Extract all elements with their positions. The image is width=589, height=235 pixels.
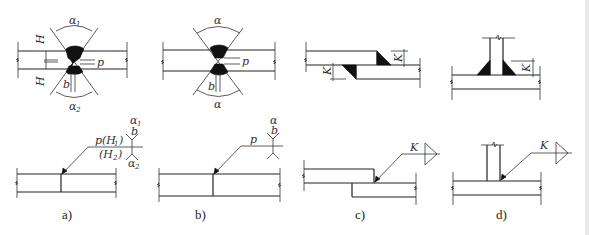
label-b-section: b <box>208 80 215 93</box>
label-p-section: p <box>242 55 249 68</box>
caption-d: d) <box>496 207 507 222</box>
panel-c-symbol: K <box>302 141 440 205</box>
panel-d-section: K <box>450 35 541 100</box>
caption-a: a) <box>62 207 72 222</box>
label-h2: H <box>34 76 47 87</box>
label-k-section: K <box>520 63 533 73</box>
symbol-label-k: K <box>539 139 549 152</box>
weld-symbol-figure: α 1 α 2 H H p b α α p <box>0 0 589 235</box>
symbol-label-b: b <box>271 124 278 137</box>
caption-c: c) <box>355 207 365 222</box>
panel-a-section: α 1 α 2 H H p b <box>16 14 128 114</box>
symbol-label-h2-close: ) <box>117 148 122 161</box>
symbol-label-p: p <box>250 133 257 146</box>
label-k-bottom-section: K <box>321 66 334 76</box>
symbol-label-h1-sub: 1 <box>114 140 118 148</box>
label-alpha1-sub: 1 <box>76 20 80 28</box>
label-alpha2-sub: 2 <box>75 106 81 114</box>
symbol-label-h2: (H <box>99 148 113 161</box>
symbol-label-b: b <box>131 125 138 138</box>
panel-b-symbol: p α b <box>157 114 283 202</box>
label-alpha-bottom-section: α <box>214 98 222 111</box>
symbol-label-k: K <box>409 141 419 154</box>
label-b-section: b <box>63 78 70 91</box>
page-edge <box>585 0 589 235</box>
symbol-label-alpha2-sub: 2 <box>134 163 140 171</box>
label-h1: H <box>34 34 47 45</box>
panel-b-section: α α p b <box>161 14 276 111</box>
label-k-top-section: K <box>392 53 405 63</box>
label-p-section: p <box>97 56 104 69</box>
panel-c-section: K K <box>304 42 421 88</box>
panel-a-symbol: p(H 1 ) (H 2 ) α 1 b α 2 <box>15 114 143 198</box>
caption-b: b) <box>195 207 206 222</box>
label-alpha-top-section: α <box>214 14 222 27</box>
panel-d-symbol: K <box>451 139 572 205</box>
symbol-label-h1-close: ) <box>118 134 123 147</box>
